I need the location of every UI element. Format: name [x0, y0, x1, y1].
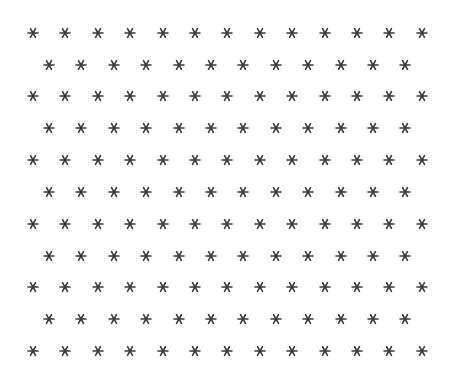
asterisk-icon — [367, 186, 379, 198]
asterisk-icon — [254, 90, 266, 102]
asterisk-icon — [221, 345, 233, 357]
asterisk-icon — [75, 313, 87, 325]
asterisk-icon — [416, 218, 428, 230]
asterisk-icon — [92, 154, 104, 166]
asterisk-icon — [27, 345, 39, 357]
asterisk-icon — [173, 313, 185, 325]
asterisk-icon — [367, 59, 379, 71]
asterisk-icon — [205, 313, 217, 325]
asterisk-icon — [43, 313, 55, 325]
asterisk-icon — [237, 250, 249, 262]
asterisk-icon — [27, 90, 39, 102]
asterisk-icon — [237, 313, 249, 325]
asterisk-icon — [286, 27, 298, 39]
asterisk-icon — [157, 154, 169, 166]
asterisk-icon — [335, 313, 347, 325]
asterisk-icon — [140, 313, 152, 325]
asterisk-icon — [302, 122, 314, 134]
asterisk-icon — [43, 186, 55, 198]
asterisk-icon — [157, 27, 169, 39]
asterisk-icon — [189, 154, 201, 166]
asterisk-icon — [270, 186, 282, 198]
asterisk-icon — [108, 122, 120, 134]
asterisk-icon — [399, 122, 411, 134]
asterisk-icon — [351, 154, 363, 166]
asterisk-icon — [124, 154, 136, 166]
asterisk-icon — [286, 281, 298, 293]
asterisk-icon — [286, 90, 298, 102]
asterisk-icon — [173, 250, 185, 262]
asterisk-icon — [270, 313, 282, 325]
asterisk-icon — [75, 122, 87, 134]
asterisk-icon — [237, 59, 249, 71]
asterisk-icon — [205, 59, 217, 71]
asterisk-icon — [254, 218, 266, 230]
asterisk-icon — [124, 345, 136, 357]
asterisk-icon — [302, 250, 314, 262]
asterisk-icon — [351, 27, 363, 39]
asterisk-icon — [189, 281, 201, 293]
asterisk-icon — [416, 27, 428, 39]
asterisk-icon — [254, 281, 266, 293]
asterisk-icon — [399, 186, 411, 198]
asterisk-icon — [286, 154, 298, 166]
asterisk-icon — [335, 250, 347, 262]
asterisk-icon — [43, 122, 55, 134]
asterisk-icon — [92, 281, 104, 293]
asterisk-icon — [319, 27, 331, 39]
asterisk-icon — [124, 218, 136, 230]
asterisk-icon — [416, 90, 428, 102]
asterisk-icon — [108, 186, 120, 198]
asterisk-icon — [319, 345, 331, 357]
asterisk-icon — [367, 313, 379, 325]
asterisk-icon — [27, 218, 39, 230]
asterisk-icon — [399, 313, 411, 325]
asterisk-icon — [221, 154, 233, 166]
asterisk-icon — [270, 122, 282, 134]
asterisk-icon — [75, 59, 87, 71]
asterisk-icon — [205, 250, 217, 262]
asterisk-icon — [205, 122, 217, 134]
asterisk-icon — [27, 27, 39, 39]
asterisk-icon — [108, 59, 120, 71]
asterisk-icon — [237, 122, 249, 134]
asterisk-icon — [383, 154, 395, 166]
asterisk-icon — [383, 90, 395, 102]
asterisk-icon — [383, 345, 395, 357]
asterisk-icon — [319, 218, 331, 230]
asterisk-icon — [108, 313, 120, 325]
asterisk-icon — [302, 186, 314, 198]
asterisk-icon — [108, 250, 120, 262]
asterisk-icon — [92, 218, 104, 230]
asterisk-icon — [383, 218, 395, 230]
asterisk-icon — [59, 218, 71, 230]
asterisk-icon — [367, 122, 379, 134]
asterisk-icon — [221, 281, 233, 293]
asterisk-icon — [59, 345, 71, 357]
asterisk-icon — [237, 186, 249, 198]
asterisk-icon — [59, 27, 71, 39]
asterisk-icon — [399, 59, 411, 71]
asterisk-icon — [59, 154, 71, 166]
asterisk-icon — [399, 250, 411, 262]
asterisk-icon — [286, 218, 298, 230]
asterisk-icon — [221, 218, 233, 230]
asterisk-icon — [173, 59, 185, 71]
asterisk-icon — [173, 186, 185, 198]
asterisk-icon — [59, 90, 71, 102]
asterisk-icon — [27, 281, 39, 293]
asterisk-icon — [157, 345, 169, 357]
asterisk-icon — [367, 250, 379, 262]
asterisk-icon — [140, 59, 152, 71]
asterisk-icon — [92, 27, 104, 39]
asterisk-icon — [189, 345, 201, 357]
asterisk-icon — [302, 313, 314, 325]
asterisk-icon — [140, 186, 152, 198]
asterisk-icon — [75, 186, 87, 198]
asterisk-icon — [157, 218, 169, 230]
asterisk-icon — [270, 59, 282, 71]
asterisk-icon — [189, 90, 201, 102]
asterisk-icon — [335, 186, 347, 198]
asterisk-icon — [254, 345, 266, 357]
asterisk-icon — [351, 281, 363, 293]
